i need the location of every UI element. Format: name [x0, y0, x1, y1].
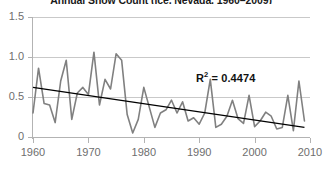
r2-symbol: R [196, 72, 204, 84]
r2-value: = 0.4474 [208, 72, 255, 84]
r-squared-annotation: R2 = 0.4474 [196, 70, 255, 84]
